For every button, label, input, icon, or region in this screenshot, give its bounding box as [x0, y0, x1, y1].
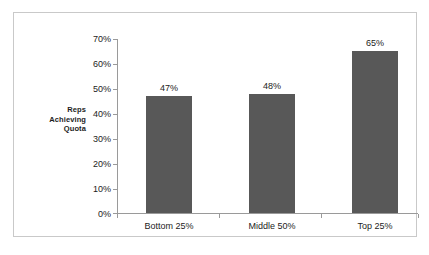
y-axis-tick-labels: 70% 60% 50% 40% 30% 20% 10% 0%: [74, 13, 111, 238]
y-tick-label-50: 50%: [77, 84, 111, 94]
y-axis-line: [117, 39, 118, 214]
y-tick-label-30: 30%: [77, 134, 111, 144]
y-tick-mark-50: [113, 89, 117, 90]
y-tick-label-60: 60%: [77, 59, 111, 69]
y-tick-mark-20: [113, 164, 117, 165]
x-sep-tick-start: [117, 214, 118, 218]
y-tick-label-70: 70%: [77, 34, 111, 44]
bar-bottom-25[interactable]: [146, 96, 192, 213]
y-tick-mark-40: [113, 114, 117, 115]
x-sep-tick-2: [321, 214, 322, 218]
y-tick-label-40: 40%: [77, 109, 111, 119]
x-sep-tick-end: [418, 214, 419, 218]
x-sep-tick-1: [219, 214, 220, 218]
bar-value-bottom-25: 47%: [139, 83, 199, 93]
x-category-label-middle-50: Middle 50%: [222, 221, 322, 232]
bar-middle-50[interactable]: [249, 94, 295, 213]
y-tick-label-20: 20%: [77, 159, 111, 169]
bar-value-top-25: 65%: [345, 38, 405, 48]
y-tick-mark-70: [113, 39, 117, 40]
y-tick-mark-60: [113, 64, 117, 65]
y-tick-mark-30: [113, 139, 117, 140]
x-category-label-bottom-25: Bottom 25%: [119, 221, 219, 232]
x-axis-line: [117, 213, 418, 214]
bar-top-25[interactable]: [352, 51, 398, 213]
chart-screenshot: Reps Achieving Quota 70% 60% 50% 40% 30%…: [0, 0, 429, 255]
y-tick-label-10: 10%: [77, 184, 111, 194]
y-tick-mark-10: [113, 189, 117, 190]
y-tick-label-0: 0%: [77, 209, 111, 219]
x-category-label-top-25: Top 25%: [325, 221, 425, 232]
bar-value-middle-50: 48%: [242, 81, 302, 91]
chart-frame: Reps Achieving Quota 70% 60% 50% 40% 30%…: [13, 12, 417, 237]
